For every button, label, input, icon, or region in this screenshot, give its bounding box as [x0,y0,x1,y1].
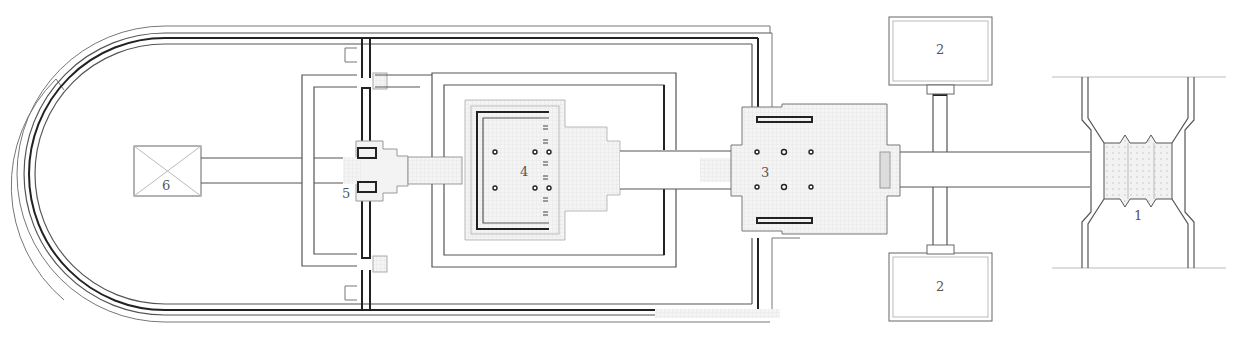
building-6: 6 [134,146,201,196]
label-2-south: 2 [936,279,944,294]
label-1: 1 [1134,208,1142,223]
gate-1: 1 [1052,77,1226,268]
axial-path-gate5-to-4 [408,157,462,184]
side-building-2-north: 2 [889,17,992,94]
gate-5: 5 [342,141,408,201]
label-3: 3 [761,165,769,180]
axial-path-4-to-3 [620,151,731,189]
label-5: 5 [342,186,350,201]
axial-path-west [201,158,357,183]
hall-3: 3 [731,104,900,234]
hall-4: 4 [465,100,620,240]
label-2-north: 2 [936,42,944,57]
label-4: 4 [520,164,528,179]
site-plan-drawing: 6 5 [0,0,1256,344]
axial-path-3-to-1 [900,94,1090,246]
side-building-2-south: 2 [889,245,992,321]
label-6: 6 [162,178,170,193]
